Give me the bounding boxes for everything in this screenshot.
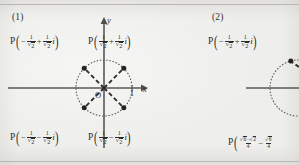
paren-open: ( xyxy=(94,132,98,144)
operator: + xyxy=(235,37,240,46)
fraction-real: 1 2 xyxy=(27,34,36,49)
operator: − xyxy=(37,133,42,142)
fraction-imag: 6 4 xyxy=(264,136,273,150)
x-axis-label: x xyxy=(143,84,147,94)
fraction-imag: 1 2 xyxy=(241,34,250,49)
paren-close: ) xyxy=(253,36,257,48)
operator: + xyxy=(109,37,114,46)
fraction-real: 1 2 xyxy=(99,34,108,49)
fraction-real: 6−2 4 xyxy=(239,136,257,150)
ray-upper-right xyxy=(104,68,124,88)
sign-real: − xyxy=(21,37,26,46)
label-p: P xyxy=(10,133,15,143)
fraction-imag: 1 2 xyxy=(43,34,52,49)
paren-open: ( xyxy=(16,36,20,48)
point-lower-left xyxy=(82,105,87,110)
operator: + xyxy=(37,37,42,46)
diagram-panel-1: (1) xyxy=(0,0,150,165)
paren-close: ) xyxy=(128,132,132,144)
paren-close: ) xyxy=(128,36,132,48)
paren-open: ( xyxy=(234,137,238,149)
paren-close: ) xyxy=(55,132,59,144)
diagram-panel-2: (2) P ( − 1 2 xyxy=(150,0,299,165)
sign-real: − xyxy=(21,133,26,142)
ray-upper-left xyxy=(84,68,104,88)
y-axis-label: y xyxy=(107,15,111,25)
label-point-upper-left: P ( − 1 2 + 1 2 i ) xyxy=(10,34,59,49)
fraction-imag: 1 2 xyxy=(43,130,52,145)
label-p: P xyxy=(228,138,233,148)
label-point-lower-left: P ( 6−2 4 − 6 4 xyxy=(228,136,273,150)
label-point-upper-left: P ( − 1 2 + 1 2 i ) xyxy=(208,34,257,49)
origin-label: O xyxy=(95,90,101,100)
panel-2-graphics xyxy=(150,0,299,165)
fraction-imag: 1 2 xyxy=(115,34,124,49)
fraction-real: 1 2 xyxy=(27,130,36,145)
fraction-real: 1 2 xyxy=(99,130,108,145)
sign-real: − xyxy=(219,37,224,46)
radius-rays xyxy=(292,62,299,67)
ray-upper-left xyxy=(292,62,299,67)
label-point-upper-right: P ( 1 2 + 1 2 i ) xyxy=(88,34,132,49)
label-p: P xyxy=(10,37,15,47)
figure-page: (1) xyxy=(0,0,299,165)
x-unit-tick-label: 1 xyxy=(130,89,134,98)
point-upper-right xyxy=(121,66,126,71)
paren-close: ) xyxy=(55,36,59,48)
label-p: P xyxy=(88,133,93,143)
label-point-lower-left: P ( − 1 2 − 1 2 i ) xyxy=(10,130,59,145)
paren-open: ( xyxy=(16,132,20,144)
point-upper-left xyxy=(82,66,87,71)
point-lower-right xyxy=(121,105,126,110)
fraction-real: 1 2 xyxy=(225,34,234,49)
label-point-lower-right: P ( 1 2 − 1 2 i ) xyxy=(88,130,132,145)
operator: − xyxy=(109,133,114,142)
label-p: P xyxy=(208,37,213,47)
operator: − xyxy=(258,139,263,148)
paren-open: ( xyxy=(94,36,98,48)
paren-open: ( xyxy=(214,36,218,48)
fraction-imag: 1 2 xyxy=(115,130,124,145)
ray-lower-right xyxy=(104,88,124,108)
label-p: P xyxy=(88,37,93,47)
